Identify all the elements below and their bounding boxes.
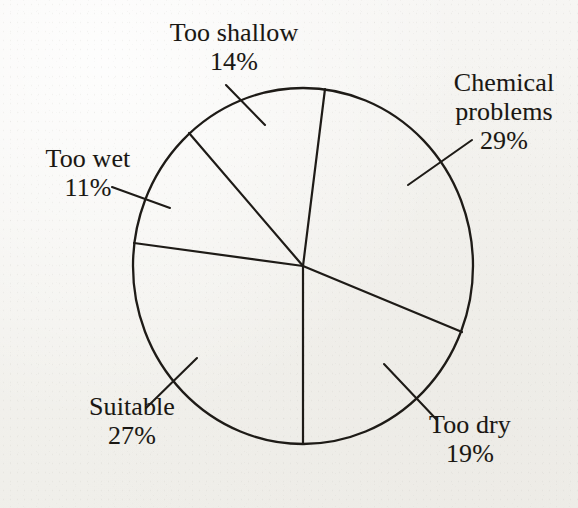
slice-label-chemical-problems-name-line1: Chemical bbox=[430, 68, 578, 97]
slice-label-too-wet-value: 11% bbox=[8, 173, 168, 202]
slice-label-suitable-value: 27% bbox=[42, 421, 222, 450]
pie-chart-figure: Too shallow 14% Chemical problems 29% To… bbox=[0, 0, 578, 508]
slice-label-too-wet: Too wet 11% bbox=[8, 144, 168, 202]
slice-label-chemical-problems-name-line2: problems bbox=[430, 97, 578, 126]
slice-label-chemical-problems-value: 29% bbox=[430, 126, 578, 155]
slice-label-too-dry: Too dry 19% bbox=[384, 410, 556, 468]
slice-divider-chemical-too-dry bbox=[303, 266, 462, 332]
slice-label-too-dry-name: Too dry bbox=[384, 410, 556, 439]
slice-label-too-shallow-name: Too shallow bbox=[134, 18, 334, 47]
slice-label-suitable: Suitable 27% bbox=[42, 392, 222, 450]
slice-label-suitable-name: Suitable bbox=[42, 392, 222, 421]
slice-divider-suitable-too-wet bbox=[134, 243, 303, 266]
slice-label-too-shallow: Too shallow 14% bbox=[134, 18, 334, 76]
slice-label-too-wet-name: Too wet bbox=[8, 144, 168, 173]
slice-divider-chemical-too-shallow bbox=[303, 89, 325, 266]
slice-label-chemical-problems: Chemical problems 29% bbox=[430, 68, 578, 155]
slice-label-too-dry-value: 19% bbox=[384, 439, 556, 468]
slice-divider-too-wet-too-shallow bbox=[189, 133, 303, 266]
slice-label-too-shallow-value: 14% bbox=[134, 47, 334, 76]
